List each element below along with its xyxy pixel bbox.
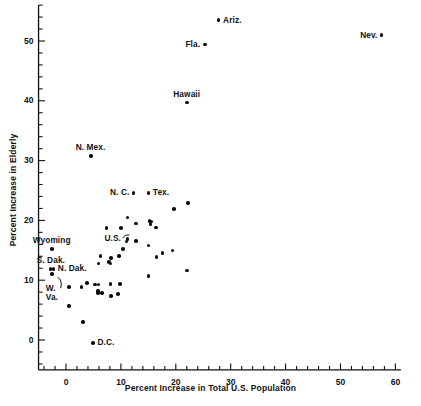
y-tick-label: 10 <box>8 275 34 285</box>
point-label: Tex. <box>153 187 169 197</box>
data-point <box>172 207 176 211</box>
data-point <box>109 256 113 260</box>
point-label: N. C. <box>110 187 129 197</box>
y-tick-label: 40 <box>8 95 34 105</box>
data-point <box>85 281 89 285</box>
x-tick-label: 20 <box>163 377 189 387</box>
y-axis-title: Percent Increase in Elderly <box>8 115 18 265</box>
data-point <box>118 282 122 286</box>
data-point <box>203 43 207 47</box>
data-point <box>96 291 100 295</box>
data-point <box>50 247 54 251</box>
data-point <box>91 341 95 345</box>
point-label: U.S. <box>104 233 121 243</box>
point-label: Nev. <box>360 30 377 40</box>
data-point <box>80 285 84 289</box>
x-tick-label: 60 <box>382 377 408 387</box>
y-tick-label: 0 <box>8 335 34 345</box>
data-point <box>109 282 113 286</box>
plot-canvas <box>0 0 421 406</box>
point-label: Ariz. <box>223 15 241 25</box>
x-tick-label: 40 <box>273 377 299 387</box>
point-label: N. Dak. <box>58 263 87 273</box>
data-point <box>185 269 189 273</box>
data-point <box>132 191 136 195</box>
data-point <box>147 274 151 278</box>
data-point <box>67 304 71 308</box>
point-label: Hawaii <box>173 89 200 99</box>
y-tick-label: 30 <box>8 155 34 165</box>
data-point <box>81 320 85 324</box>
data-point <box>121 247 125 251</box>
data-point <box>109 294 113 298</box>
x-tick-label: 10 <box>108 377 134 387</box>
data-point <box>134 239 138 243</box>
x-tick-label: 0 <box>53 377 79 387</box>
x-tick-label: 30 <box>218 377 244 387</box>
data-point <box>89 154 93 158</box>
data-point <box>149 222 153 226</box>
y-tick-label: 50 <box>8 36 34 46</box>
data-point <box>186 201 190 205</box>
data-point <box>116 292 120 296</box>
scatter-plot-figure: Percent Increase in Total U.S. Populatio… <box>0 0 421 406</box>
y-tick-label: 20 <box>8 215 34 225</box>
point-label: W.Va. <box>46 284 58 302</box>
point-label: N. Mex. <box>76 142 106 152</box>
point-label: D.C. <box>97 337 114 347</box>
data-point <box>155 255 159 259</box>
data-point <box>67 285 71 289</box>
data-point <box>100 291 104 295</box>
data-point <box>119 226 123 230</box>
x-tick-label: 50 <box>328 377 354 387</box>
point-label: Fla. <box>185 39 200 49</box>
data-point <box>52 267 56 271</box>
data-point <box>50 272 54 276</box>
data-point <box>185 101 189 105</box>
point-label: Wyoming <box>33 235 71 245</box>
data-point <box>147 191 151 195</box>
